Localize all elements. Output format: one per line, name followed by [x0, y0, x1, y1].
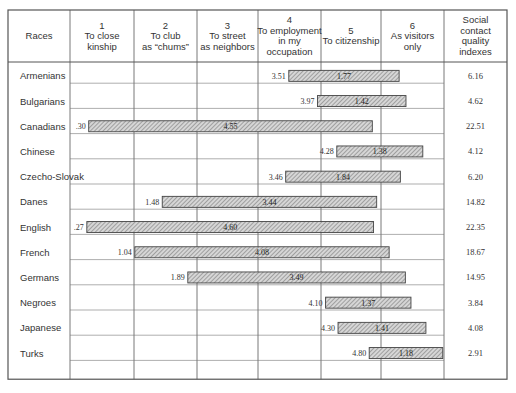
column-header-line: 5 — [348, 25, 353, 36]
row-label: Negroes — [20, 297, 56, 308]
start-value-label: .27 — [74, 223, 84, 232]
table-row: Bulgarians3.971.424.62 — [20, 96, 483, 107]
column-header-c6: 6As visitorsonly — [391, 20, 435, 52]
column-header-line: in my — [278, 35, 301, 46]
index-value: 14.95 — [466, 272, 485, 282]
start-value-label: 1.04 — [118, 248, 132, 257]
column-header-line: 1 — [99, 20, 104, 31]
row-label: Armenians — [20, 70, 66, 81]
column-header-c2: 2To clubas “chums” — [142, 20, 189, 52]
index-value: 6.20 — [468, 172, 483, 182]
start-value-label: 4.80 — [352, 349, 366, 358]
column-header-line: 6 — [410, 20, 415, 31]
table-row: Chinese4.281.384.12 — [20, 146, 483, 157]
table-grid — [8, 10, 507, 379]
column-header-line: 2 — [163, 20, 168, 31]
spread-value-label: 1.77 — [337, 72, 351, 81]
column-header-line: Social — [463, 14, 489, 25]
spread-value-label: 4.08 — [255, 248, 269, 257]
start-value-label: 4.10 — [309, 299, 323, 308]
table-row: Danes1.483.4414.82 — [20, 196, 485, 207]
table-row: Germans1.893.4914.95 — [20, 272, 485, 283]
index-value: 2.91 — [468, 348, 483, 358]
column-header-line: occupation — [267, 46, 313, 57]
column-header-line: as neighbors — [200, 41, 255, 52]
start-value-label: 4.28 — [320, 147, 334, 156]
index-value: 6.16 — [468, 71, 483, 81]
start-value-label: 4.30 — [321, 324, 335, 333]
column-header-line: quality — [462, 35, 490, 46]
column-header-line: contact — [460, 25, 491, 36]
spread-value-label: 1.41 — [375, 324, 389, 333]
table-row: Armenians3.511.776.16 — [20, 70, 483, 81]
spread-value-label: 1.38 — [373, 147, 387, 156]
column-header-line: To street — [209, 30, 246, 41]
row-label: English — [20, 222, 51, 233]
column-header-line: as “chums” — [142, 41, 189, 52]
index-value: 4.62 — [468, 96, 483, 106]
index-value: 18.67 — [466, 247, 485, 257]
column-header-line: Races — [26, 30, 53, 41]
column-header-c1: 1To closekinship — [85, 20, 120, 52]
start-value-label: 1.48 — [145, 198, 159, 207]
index-value: 4.08 — [468, 323, 483, 333]
table-row: Canadians.304.5522.51 — [20, 121, 485, 132]
column-header-line: indexes — [459, 46, 492, 57]
column-header-c3: 3To streetas neighbors — [200, 20, 255, 52]
row-label: French — [20, 247, 50, 258]
spread-value-label: 1.37 — [361, 299, 375, 308]
row-label: Germans — [20, 272, 59, 283]
start-value-label: 3.97 — [300, 97, 314, 106]
index-value: 3.84 — [468, 298, 484, 308]
row-label: Czecho-Slovak — [20, 171, 84, 182]
row-label: Danes — [20, 196, 48, 207]
row-label: Turks — [20, 348, 44, 359]
row-label: Japanese — [20, 322, 61, 333]
column-header-c5: 5To citizenship — [322, 25, 379, 47]
column-headers: Races1To closekinship2To clubas “chums”3… — [26, 14, 493, 57]
index-value: 22.35 — [466, 222, 485, 232]
table-border — [8, 10, 507, 379]
row-label: Canadians — [20, 121, 66, 132]
table-rows: Armenians3.511.776.16Bulgarians3.971.424… — [20, 70, 485, 358]
index-value: 4.12 — [468, 146, 483, 156]
start-value-label: 3.46 — [269, 173, 283, 182]
row-label: Bulgarians — [20, 96, 65, 107]
start-value-label: 1.89 — [171, 273, 185, 282]
column-header-line: 3 — [225, 20, 230, 31]
table-row: English.274.6022.35 — [20, 222, 485, 233]
spread-value-label: 1.42 — [355, 97, 369, 106]
social-distance-chart: Races1To closekinship2To clubas “chums”3… — [0, 0, 516, 393]
spread-value-label: 4.55 — [224, 122, 238, 131]
column-header-line: To citizenship — [322, 35, 379, 46]
start-value-label: 3.51 — [272, 72, 286, 81]
column-header-line: To club — [150, 30, 180, 41]
column-header-line: kinship — [87, 41, 117, 52]
table-row: Japanese4.301.414.08 — [20, 322, 483, 333]
index-value: 22.51 — [466, 121, 485, 131]
row-label: Chinese — [20, 146, 55, 157]
table-row: Negroes4.101.373.84 — [20, 297, 484, 308]
table-row: Turks4.801.182.91 — [20, 348, 483, 359]
column-header-line: To close — [85, 30, 120, 41]
index-value: 14.82 — [466, 197, 485, 207]
column-header-index: Socialcontactqualityindexes — [459, 14, 492, 57]
column-header-line: To employment — [257, 25, 322, 36]
column-header-c4: 4To employmentin myoccupation — [257, 14, 322, 57]
spread-value-label: 1.18 — [399, 349, 413, 358]
spread-value-label: 1.84 — [336, 173, 350, 182]
spread-value-label: 3.49 — [290, 273, 304, 282]
table-row: French1.044.0818.67 — [20, 247, 485, 258]
table-row: Czecho-Slovak3.461.846.20 — [20, 171, 483, 182]
spread-value-label: 3.44 — [262, 198, 276, 207]
column-header-line: only — [404, 41, 422, 52]
column-header-race: Races — [26, 30, 53, 41]
start-value-label: .30 — [76, 122, 86, 131]
column-header-line: 4 — [287, 14, 292, 25]
spread-value-label: 4.60 — [223, 223, 237, 232]
column-header-line: As visitors — [391, 30, 435, 41]
